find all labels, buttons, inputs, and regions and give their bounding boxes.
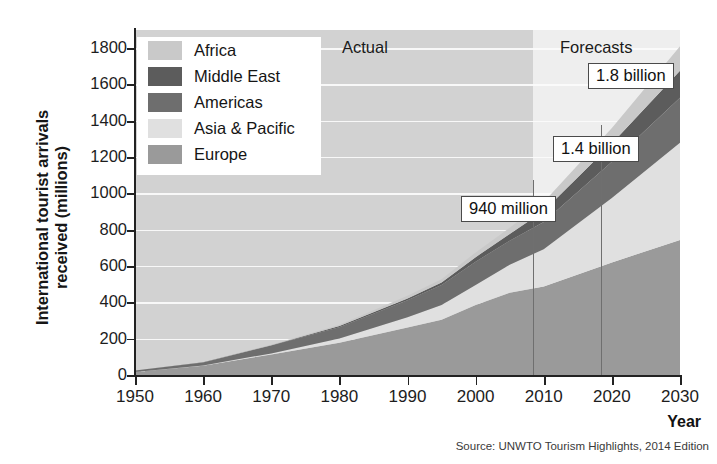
x-tick-label-2000: 2000 bbox=[441, 387, 511, 407]
y-tick-1000 bbox=[127, 193, 136, 195]
y-tick-label-1600: 1600 bbox=[67, 74, 127, 93]
x-tick-label-1960: 1960 bbox=[168, 387, 238, 407]
legend-item-label: Africa bbox=[194, 41, 236, 60]
legend-swatch-icon bbox=[148, 67, 182, 86]
x-tick-label-2030: 2030 bbox=[645, 387, 715, 407]
y-axis-title-line1: International tourist arrivals bbox=[33, 110, 51, 325]
legend-swatch-icon bbox=[148, 119, 182, 138]
x-tick-1970 bbox=[271, 377, 273, 385]
y-tick-label-400: 400 bbox=[67, 292, 127, 311]
legend-item-label: Middle East bbox=[194, 67, 280, 86]
legend-item-africa: Africa bbox=[148, 37, 321, 63]
legend-item-label: Americas bbox=[194, 93, 263, 112]
y-tick-200 bbox=[127, 339, 136, 341]
x-tick-2010 bbox=[544, 377, 546, 385]
y-tick-1600 bbox=[127, 84, 136, 86]
x-tick-1990 bbox=[408, 377, 410, 385]
y-axis-title: International tourist arrivals received … bbox=[33, 47, 72, 387]
legend-item-asia-pacific: Asia & Pacific bbox=[148, 115, 321, 141]
callout-940-million: 940 million bbox=[461, 196, 556, 222]
y-tick-label-0: 0 bbox=[67, 365, 127, 384]
y-tick-label-1800: 1800 bbox=[67, 38, 127, 57]
legend-item-label: Asia & Pacific bbox=[194, 119, 295, 138]
x-tick-2030 bbox=[680, 377, 682, 385]
legend-item-europe: Europe bbox=[148, 141, 321, 167]
x-tick-label-1950: 1950 bbox=[100, 387, 170, 407]
y-tick-800 bbox=[127, 230, 136, 232]
y-tick-label-1000: 1000 bbox=[67, 183, 127, 202]
y-tick-label-600: 600 bbox=[67, 256, 127, 275]
x-tick-2020 bbox=[612, 377, 614, 385]
period-label-forecasts: Forecasts bbox=[560, 38, 632, 57]
x-tick-1950 bbox=[135, 377, 137, 385]
tourism-arrivals-chart: International tourist arrivals received … bbox=[0, 0, 717, 464]
legend-item-label: Europe bbox=[194, 145, 247, 164]
x-tick-label-1990: 1990 bbox=[373, 387, 443, 407]
y-tick-400 bbox=[127, 302, 136, 304]
y-tick-1200 bbox=[127, 157, 136, 159]
x-axis-title: Year bbox=[667, 413, 701, 431]
callout-1-8-billion: 1.8 billion bbox=[588, 63, 674, 89]
x-tick-label-1970: 1970 bbox=[236, 387, 306, 407]
legend-item-middle-east: Middle East bbox=[148, 63, 321, 89]
legend-item-americas: Americas bbox=[148, 89, 321, 115]
y-tick-600 bbox=[127, 266, 136, 268]
x-tick-label-1980: 1980 bbox=[304, 387, 374, 407]
y-tick-label-800: 800 bbox=[67, 220, 127, 239]
leader-line-2020 bbox=[601, 125, 602, 375]
source-note: Source: UNWTO Tourism Highlights, 2014 E… bbox=[456, 440, 709, 452]
y-tick-1400 bbox=[127, 121, 136, 123]
x-tick-label-2020: 2020 bbox=[577, 387, 647, 407]
y-tick-label-200: 200 bbox=[67, 329, 127, 348]
x-tick-2000 bbox=[476, 377, 478, 385]
x-tick-label-2010: 2010 bbox=[509, 387, 579, 407]
period-label-actual: Actual bbox=[342, 38, 388, 57]
legend-swatch-icon bbox=[148, 93, 182, 112]
y-tick-1800 bbox=[127, 48, 136, 50]
legend-swatch-icon bbox=[148, 145, 182, 164]
x-tick-1960 bbox=[203, 377, 205, 385]
y-tick-label-1200: 1200 bbox=[67, 147, 127, 166]
callout-1-4-billion: 1.4 billion bbox=[553, 136, 639, 162]
x-tick-1980 bbox=[339, 377, 341, 385]
y-tick-label-1400: 1400 bbox=[67, 111, 127, 130]
legend-swatch-icon bbox=[148, 41, 182, 60]
y-axis-line bbox=[134, 28, 136, 377]
legend: AfricaMiddle EastAmericasAsia & PacificE… bbox=[137, 37, 321, 175]
